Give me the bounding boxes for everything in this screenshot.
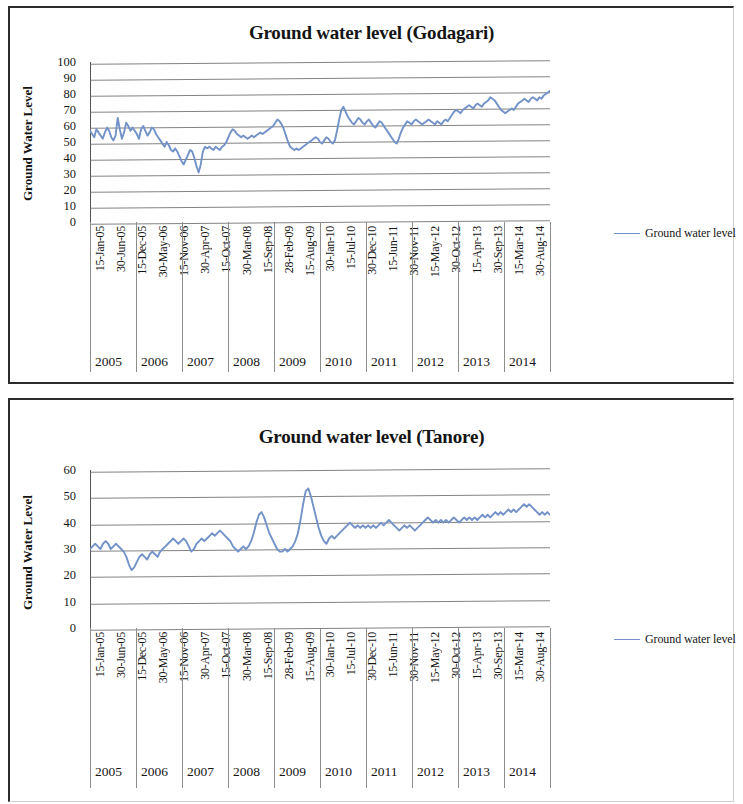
x-group-label: 2009 <box>279 764 306 780</box>
x-group-label: 2008 <box>233 764 260 780</box>
x-group-label: 2012 <box>417 764 444 780</box>
y-tick-label: 70 <box>64 104 77 117</box>
x-group-label: 2014 <box>509 354 536 370</box>
y-tick-label: 10 <box>64 200 77 213</box>
x-group-label: 2013 <box>463 354 490 370</box>
y-tick-label: 30 <box>64 168 77 181</box>
y-tick-label: 40 <box>64 152 77 165</box>
y-tick-label: 40 <box>64 516 77 529</box>
x-group-label: 2014 <box>509 764 536 780</box>
y-tick-label: 100 <box>57 56 76 69</box>
y-tick-label: 60 <box>64 464 77 477</box>
series-path <box>90 91 550 173</box>
legend-tanore: Ground water level <box>614 632 736 647</box>
chart-tanore: Ground water level (Tanore) Ground Water… <box>8 398 734 802</box>
x-group-label: 2010 <box>325 354 352 370</box>
y-axis-tick-labels-godagari: 0102030405060708090100 <box>40 62 76 222</box>
y-tick-label: 20 <box>64 569 77 582</box>
x-group-label: 2007 <box>187 764 214 780</box>
x-group-label: 2005 <box>95 354 122 370</box>
y-tick-label: 0 <box>70 216 76 229</box>
x-group-separator <box>550 222 551 372</box>
legend-label-tanore: Ground water level <box>645 632 736 647</box>
y-axis-title-godagari: Ground Water Level <box>20 64 36 224</box>
y-tick-label: 80 <box>64 88 77 101</box>
legend-label-godagari: Ground water level <box>645 226 736 241</box>
x-axis-year-labels-tanore: 2005200620072008200920102011201220132014 <box>90 758 550 780</box>
x-group-separator <box>550 628 551 788</box>
series-path <box>90 488 550 570</box>
x-group-label: 2011 <box>371 354 398 370</box>
chart-title-godagari: Ground water level (Godagari) <box>10 22 733 44</box>
x-group-label: 2005 <box>95 764 122 780</box>
x-group-label: 2009 <box>279 354 306 370</box>
y-tick-label: 20 <box>64 184 77 197</box>
x-axis-year-labels-godagari: 2005200620072008200920102011201220132014 <box>90 348 550 370</box>
y-tick-label: 60 <box>64 120 77 133</box>
x-group-label: 2011 <box>371 764 398 780</box>
y-axis-tick-labels-tanore: 0102030405060 <box>40 470 76 628</box>
x-group-label: 2013 <box>463 764 490 780</box>
chart-godagari: Ground water level (Godagari) Ground Wat… <box>8 6 734 384</box>
y-tick-label: 90 <box>64 72 77 85</box>
y-tick-label: 50 <box>64 490 77 503</box>
x-group-label: 2007 <box>187 354 214 370</box>
series-line-godagari <box>90 62 550 222</box>
y-tick-label: 10 <box>64 595 77 608</box>
y-tick-label: 30 <box>64 543 77 556</box>
x-group-label: 2006 <box>141 354 168 370</box>
x-group-label: 2006 <box>141 764 168 780</box>
y-tick-label: 0 <box>70 622 76 635</box>
y-tick-label: 50 <box>64 136 77 149</box>
series-line-tanore <box>90 470 550 628</box>
y-axis-title-tanore: Ground Water Level <box>20 470 36 636</box>
legend-line-swatch-tanore <box>614 639 640 640</box>
legend-line-swatch-godagari <box>614 233 640 234</box>
plot-area-tanore <box>90 470 550 628</box>
figure-page: Ground water level (Godagari) Ground Wat… <box>0 0 743 804</box>
plot-area-godagari <box>90 62 550 222</box>
legend-godagari: Ground water level <box>614 226 736 241</box>
x-group-label: 2012 <box>417 354 444 370</box>
x-group-label: 2008 <box>233 354 260 370</box>
chart-title-tanore: Ground water level (Tanore) <box>10 426 733 448</box>
x-group-label: 2010 <box>325 764 352 780</box>
